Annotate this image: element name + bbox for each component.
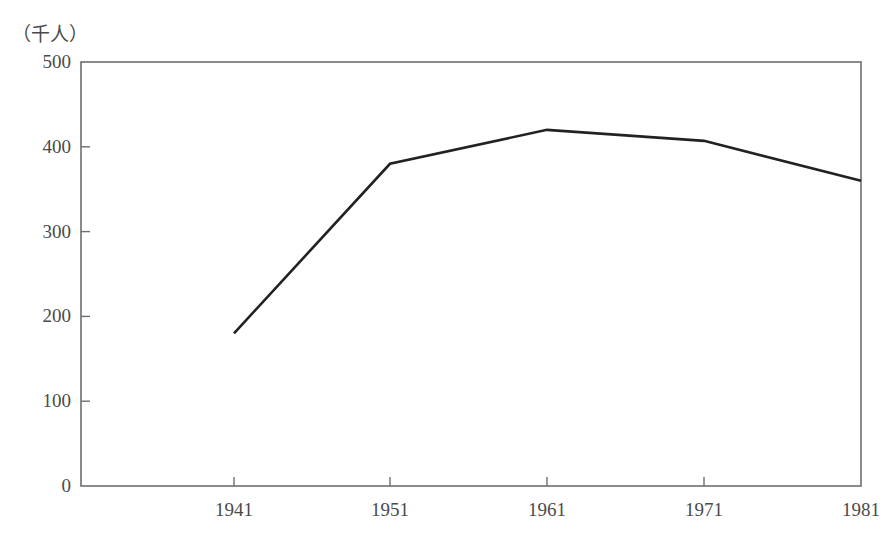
x-tick-label: 1951 — [345, 500, 435, 519]
x-tick-label: 1961 — [502, 500, 592, 519]
plot-area — [0, 0, 887, 536]
y-tick-label: 400 — [9, 137, 71, 156]
x-axis-ticks — [234, 477, 704, 486]
x-tick-label: 1971 — [659, 500, 749, 519]
y-tick-label: 500 — [9, 52, 71, 71]
y-tick-label: 100 — [9, 391, 71, 410]
y-tick-label: 300 — [9, 222, 71, 241]
data-series-line — [234, 130, 861, 334]
axis-box — [81, 62, 861, 486]
x-tick-label: 1941 — [189, 500, 279, 519]
y-tick-label: 200 — [9, 306, 71, 325]
y-tick-label: 0 — [9, 476, 71, 495]
line-chart: （千人） 0100200300400500 194119511961197119… — [0, 0, 887, 536]
x-tick-label: 1981 — [816, 500, 887, 519]
y-axis-ticks — [81, 147, 90, 401]
